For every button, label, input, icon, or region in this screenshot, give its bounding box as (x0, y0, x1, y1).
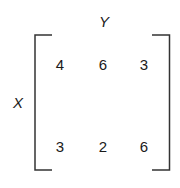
matrix-cell-r2c2: 2 (93, 139, 113, 154)
matrix-cell-r1c1: 4 (50, 57, 70, 72)
matrix-cell-r2c3: 6 (134, 139, 154, 154)
matrix-cell-r1c2: 6 (93, 57, 113, 72)
row-player-label: X (13, 95, 23, 110)
matrix-cell-r2c1: 3 (50, 139, 70, 154)
right-bracket (152, 35, 170, 170)
matrix-cell-r1c3: 3 (134, 57, 154, 72)
matrix-brackets (0, 0, 180, 188)
column-player-label: Y (99, 14, 109, 29)
